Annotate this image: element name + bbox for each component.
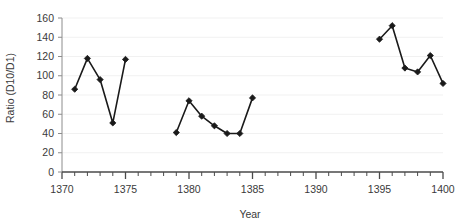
y-axis-tick-label: 60 [42,108,54,120]
y-axis-tick-label: 100 [36,69,54,81]
data-point-marker [173,129,179,135]
series-lines-group [75,26,443,134]
gridlines-group [62,18,443,153]
y-axis-tick-label: 80 [42,89,54,101]
data-point-marker [402,65,408,71]
y-axis-ticks-group [58,18,62,172]
y-axis-tick-label: 40 [42,127,54,139]
x-axis-tick-label: 1375 [114,183,138,195]
data-point-marker [122,56,128,62]
x-axis-tick-label: 1370 [50,183,74,195]
series-markers-group [72,23,447,137]
y-axis-tick-label: 120 [36,50,54,62]
data-point-marker [110,120,116,126]
data-point-marker [72,86,78,92]
x-axis-tick-label: 1385 [241,183,265,195]
data-point-marker [237,130,243,136]
y-axis-tick-label: 140 [36,31,54,43]
x-axis-tick-labels: 1370137513801385139013951400 [50,183,455,195]
data-point-marker [440,80,446,86]
data-point-marker [249,95,255,101]
x-axis-ticks-group [62,172,443,179]
y-axis-tick-label: 0 [48,166,54,178]
y-axis-title: Ratio (D10/D1) [4,53,16,123]
x-axis-title: Year [239,208,261,220]
series-line [75,58,126,122]
y-axis-tick-label: 160 [36,12,54,24]
y-axis-tick-labels: 020406080100120140160 [36,12,54,178]
line-chart: 020406080100120140160 137013751380138513… [0,0,458,223]
chart-container: 020406080100120140160 137013751380138513… [0,0,458,223]
x-axis-tick-label: 1380 [177,183,201,195]
x-axis-tick-label: 1395 [368,183,392,195]
series-line [380,26,444,84]
x-axis-tick-label: 1390 [304,183,328,195]
y-axis-tick-label: 20 [42,146,54,158]
x-axis-tick-label: 1400 [431,183,455,195]
